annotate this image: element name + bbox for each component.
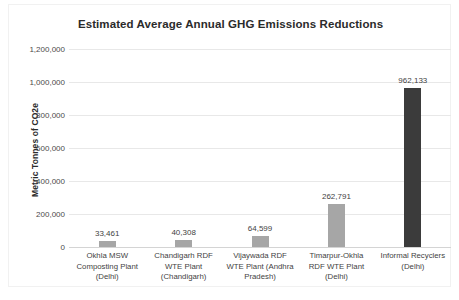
- bar-slot: 962,133: [375, 49, 451, 247]
- x-axis-category-label-line: Chandigarh RDF: [147, 251, 219, 262]
- x-axis-category-label: Chandigarh RDFWTE Plant(Chandigarh): [145, 251, 221, 283]
- x-axis-category-label-line: (Chandigarh): [147, 272, 219, 283]
- x-axis-category-label: Timarpur-OkhlaRDF WTE Plant(Delhi): [298, 251, 374, 283]
- chart-container: Estimated Average Annual GHG Emissions R…: [8, 4, 451, 287]
- x-axis-category-label-line: Okhla MSW: [71, 251, 143, 262]
- x-axis-category-label-line: Timarpur-Okhla: [300, 251, 372, 262]
- x-axis-category-label: Informal Recyclers(Delhi): [375, 251, 451, 283]
- chart-title: Estimated Average Annual GHG Emissions R…: [9, 18, 452, 30]
- y-axis-tick-label: 1,000,000: [11, 78, 65, 87]
- y-axis-tick-label: 600,000: [11, 144, 65, 153]
- y-axis-tick-label: 1,200,000: [11, 45, 65, 54]
- y-axis-tick-label: 400,000: [11, 177, 65, 186]
- bar-slot: 40,308: [145, 49, 221, 247]
- bar-series: 33,46140,30864,599262,791962,133: [69, 49, 451, 247]
- x-axis-category-label-line: (Delhi): [300, 272, 372, 283]
- x-axis-category-label-line: RDF WTE Plant: [300, 262, 372, 273]
- x-axis-category-label-line: Pradesh): [224, 272, 296, 283]
- bar[interactable]: [328, 204, 345, 247]
- x-axis-category-label-line: WTE Plant: [147, 262, 219, 273]
- bar-slot: 262,791: [298, 49, 374, 247]
- y-axis-tick-label: 800,000: [11, 111, 65, 120]
- x-axis-category-label: Vijaywada RDFWTE Plant (AndhraPradesh): [222, 251, 298, 283]
- x-axis-category-label: Okhla MSWComposting Plant(Delhi): [69, 251, 145, 283]
- x-axis-category-label-line: (Delhi): [377, 262, 449, 273]
- bar-value-label: 33,461: [95, 229, 119, 238]
- x-axis-category-labels: Okhla MSWComposting Plant(Delhi)Chandiga…: [69, 251, 451, 283]
- y-axis-tick-label: 200,000: [11, 210, 65, 219]
- bar-slot: 33,461: [69, 49, 145, 247]
- x-axis-category-label-line: Vijaywada RDF: [224, 251, 296, 262]
- bar[interactable]: [175, 240, 192, 247]
- x-axis-category-label-line: (Delhi): [71, 272, 143, 283]
- bar[interactable]: [99, 241, 116, 247]
- x-axis-category-label-line: WTE Plant (Andhra: [224, 262, 296, 273]
- y-axis-tick-label: 0: [11, 243, 65, 252]
- bar[interactable]: [404, 88, 421, 247]
- bar-value-label: 962,133: [398, 76, 427, 85]
- gridline: [69, 247, 451, 248]
- bar-value-label: 40,308: [171, 228, 195, 237]
- x-axis-category-label-line: Composting Plant: [71, 262, 143, 273]
- bar-value-label: 64,599: [248, 224, 272, 233]
- bar[interactable]: [252, 236, 269, 247]
- bar-slot: 64,599: [222, 49, 298, 247]
- y-axis-tick-labels: 1,200,0001,000,000800,000600,000400,0002…: [9, 49, 65, 247]
- x-axis-category-label-line: Informal Recyclers: [377, 251, 449, 262]
- bar-value-label: 262,791: [322, 192, 351, 201]
